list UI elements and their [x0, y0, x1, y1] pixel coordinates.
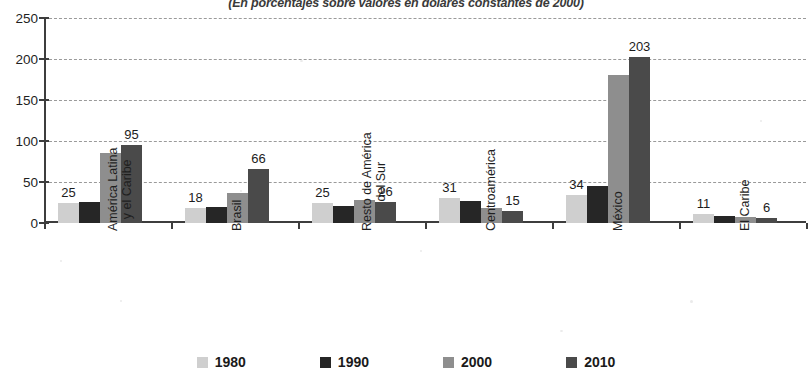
category-label-line: El Caribe — [739, 180, 753, 231]
bar-fill — [248, 169, 269, 223]
gridline-200 — [44, 59, 806, 60]
scan-artifact — [760, 120, 762, 122]
y-tick-label-0: 0 — [30, 216, 38, 231]
bar-value-label: 25 — [61, 185, 75, 200]
legend-swatch-icon — [443, 357, 454, 368]
category-label: México — [612, 191, 626, 231]
bar-1990 — [460, 18, 481, 223]
bar-1980: 25 — [312, 18, 333, 223]
bar-fill — [333, 206, 354, 223]
category-label-line: Brasil — [231, 200, 245, 231]
bar-value-label: 31 — [442, 180, 456, 195]
x-tick — [298, 223, 300, 229]
bar-1980: 18 — [185, 18, 206, 223]
y-tick-label-50: 50 — [23, 175, 38, 190]
x-tick — [552, 223, 554, 229]
bar-chart: (En porcentajes sobre valores en dólares… — [0, 0, 812, 376]
category-label: Resto de Américadel Sur — [361, 132, 388, 231]
bar-value-label: 25 — [315, 185, 329, 200]
x-tick — [171, 223, 173, 229]
legend-item-1990[interactable]: 1990 — [320, 354, 369, 370]
bar-fill — [756, 218, 777, 223]
y-axis — [44, 18, 46, 223]
legend-item-1980[interactable]: 1980 — [197, 354, 246, 370]
bar-value-label: 95 — [124, 127, 138, 142]
scan-artifact — [560, 330, 563, 332]
gridline-50 — [44, 182, 806, 183]
y-tick-label-150: 150 — [15, 93, 38, 108]
bar-fill — [439, 198, 460, 223]
bar-value-label: 34 — [569, 177, 583, 192]
category-label-line: Resto de América — [361, 132, 375, 231]
chart-title: (En porcentajes sobre valores en dólares… — [0, 0, 812, 10]
bar-group: 3115 — [439, 18, 523, 223]
category-label-line: Centroamérica — [485, 149, 499, 231]
bar-fill — [693, 214, 714, 223]
legend-label: 2010 — [584, 354, 615, 370]
scan-artifact — [120, 300, 122, 302]
bar-value-label: 18 — [188, 190, 202, 205]
x-tick — [806, 223, 808, 229]
bar-1980: 34 — [566, 18, 587, 223]
bar-1990 — [714, 18, 735, 223]
chart-legend: 1980199020002010 — [0, 354, 812, 370]
plot-area: 259518662526311534203116 — [44, 18, 806, 223]
bar-2010: 66 — [248, 18, 269, 223]
y-tick-label-100: 100 — [15, 134, 38, 149]
category-label-line: del Sur — [375, 132, 389, 231]
scan-artifact — [300, 60, 303, 62]
y-axis-tick-labels: 050100150200250 — [0, 18, 38, 223]
y-tick-label-200: 200 — [15, 52, 38, 67]
bar-group: 116 — [693, 18, 777, 223]
legend-item-2000[interactable]: 2000 — [443, 354, 492, 370]
scan-artifact — [60, 260, 62, 262]
gridline-250 — [44, 18, 806, 19]
scan-artifact — [240, 190, 242, 192]
bar-fill — [206, 207, 227, 223]
bar-fill — [460, 201, 481, 223]
bar-fill — [502, 211, 523, 223]
scan-artifact — [690, 300, 693, 303]
bar-fill — [58, 203, 79, 224]
bar-fill — [79, 202, 100, 223]
bar-value-label: 6 — [763, 200, 770, 215]
bar-1990 — [206, 18, 227, 223]
scan-artifact — [420, 250, 422, 252]
bar-1990 — [79, 18, 100, 223]
category-label: El Caribe — [739, 180, 753, 231]
bar-1980: 11 — [693, 18, 714, 223]
legend-swatch-icon — [197, 357, 208, 368]
bar-value-label: 11 — [697, 196, 711, 211]
bar-group: 34203 — [566, 18, 650, 223]
legend-label: 1980 — [215, 354, 246, 370]
x-tick — [425, 223, 427, 229]
category-label: Centroamérica — [485, 149, 499, 231]
bar-fill — [629, 57, 650, 223]
legend-label: 2000 — [461, 354, 492, 370]
legend-swatch-icon — [566, 357, 577, 368]
bar-value-label: 66 — [251, 151, 265, 166]
y-tick-mark-250 — [39, 17, 49, 19]
y-tick-mark-200 — [39, 58, 49, 60]
bar-1980: 25 — [58, 18, 79, 223]
category-label-line: México — [612, 191, 626, 231]
category-label-line: y el Caribe — [121, 148, 135, 231]
y-tick-mark-150 — [39, 99, 49, 101]
legend-label: 1990 — [338, 354, 369, 370]
bar-1990 — [587, 18, 608, 223]
bar-value-label: 203 — [629, 39, 651, 54]
gridline-150 — [44, 100, 806, 101]
bar-fill — [185, 208, 206, 223]
legend-item-2010[interactable]: 2010 — [566, 354, 615, 370]
x-tick — [44, 223, 46, 229]
bar-fill — [714, 216, 735, 223]
bar-1980: 31 — [439, 18, 460, 223]
y-tick-label-250: 250 — [15, 11, 38, 26]
legend-swatch-icon — [320, 357, 331, 368]
y-tick-mark-100 — [39, 140, 49, 142]
gridline-100 — [44, 141, 806, 142]
y-tick-mark-50 — [39, 181, 49, 183]
bar-fill — [566, 195, 587, 223]
bar-2000 — [227, 18, 248, 223]
bar-value-label: 15 — [505, 193, 519, 208]
